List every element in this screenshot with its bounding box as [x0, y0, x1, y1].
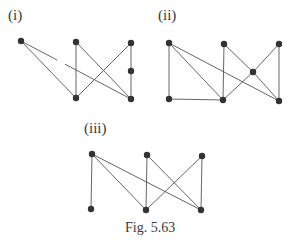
- graph-edge: [146, 155, 147, 210]
- graph-vertex: [89, 151, 95, 157]
- graph-i: [18, 38, 134, 102]
- graph-vertex: [128, 40, 134, 46]
- graph-label-i: (i): [8, 8, 22, 23]
- graph-iii: [88, 151, 205, 213]
- figure-caption: Fig. 5.63: [125, 221, 175, 235]
- graph-vertex: [198, 207, 204, 213]
- graph-vertex: [221, 41, 227, 47]
- graph-vertex: [276, 41, 282, 47]
- graph-edge: [223, 72, 253, 100]
- graph-vertex: [73, 95, 79, 101]
- graph-label-iii: (iii): [84, 121, 107, 136]
- graph-vertex: [128, 96, 134, 102]
- graph-vertex: [18, 38, 24, 44]
- graph-edge: [169, 99, 223, 100]
- graph-vertex: [88, 206, 94, 212]
- graph-vertex: [199, 153, 205, 159]
- graph-edge: [201, 156, 202, 210]
- graph-vertex: [276, 98, 282, 104]
- graph-edge: [253, 72, 279, 101]
- graph-vertex: [73, 39, 79, 45]
- graph-edge: [92, 154, 146, 210]
- graph-label-ii: (ii): [158, 8, 176, 23]
- graph-edge: [253, 44, 279, 72]
- graph-edge: [169, 43, 223, 100]
- graph-vertex: [220, 97, 226, 103]
- graph-edge: [76, 43, 131, 98]
- graph-ii: [166, 40, 282, 104]
- graph-vertex: [166, 96, 172, 102]
- graph-edge: [65, 64, 131, 99]
- graph-edge: [223, 44, 224, 100]
- graph-vertex: [166, 40, 172, 46]
- graph-edge: [91, 154, 92, 209]
- graph-edge: [21, 41, 57, 60]
- graph-vertex: [144, 152, 150, 158]
- graph-edge: [224, 44, 253, 72]
- graph-edge: [21, 41, 76, 98]
- graph-vertex: [143, 207, 149, 213]
- graph-vertex: [250, 69, 256, 75]
- graph-figure: [0, 0, 299, 252]
- graph-vertex: [128, 68, 134, 74]
